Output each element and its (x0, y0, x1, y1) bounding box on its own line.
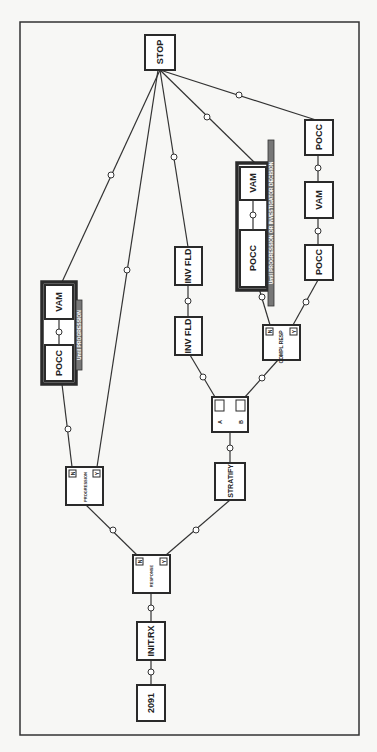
mid-bracket-label: Until PROGRESSION OR INVESTIGATOR DECISI… (268, 161, 274, 284)
svg-text:A: A (217, 420, 223, 424)
left-pocc-label: POCC (54, 350, 64, 377)
right-vam-node[interactable]: VAM (305, 182, 333, 218)
svg-text:COMPL RESP: COMPL RESP (278, 330, 284, 364)
svg-text:N: N (137, 559, 143, 563)
svg-text:2091: 2091 (146, 693, 156, 713)
randomize-node[interactable]: A B (212, 397, 248, 432)
svg-text:INIT.RX: INIT.RX (146, 625, 156, 656)
svg-text:VAM: VAM (314, 190, 324, 209)
progression-decision[interactable]: N Y PROGRESSION (66, 467, 103, 505)
svg-text:INV FLD: INV FLD (183, 248, 193, 283)
compl-resp-decision[interactable]: N Y COMPL RESP (263, 325, 300, 363)
right-pocc-1-node[interactable]: POCC (305, 120, 333, 155)
svg-text:B: B (238, 420, 244, 424)
init-rx-node[interactable]: INIT.RX (137, 622, 165, 660)
right-pocc-2-node[interactable]: POCC (305, 245, 333, 280)
left-vam-label: VAM (54, 292, 64, 311)
left-bracket-label: Until PROGRESSION (76, 310, 82, 360)
inv-fld-1-node[interactable]: INV FLD (175, 247, 202, 285)
left-cycle-bracket: VAM POCC Until PROGRESSION (42, 282, 82, 384)
mid-pocc-label: POCC (248, 245, 258, 272)
svg-text:RESPONSE: RESPONSE (149, 565, 154, 588)
mid-vam-label: VAM (248, 173, 258, 192)
stop-label: STOP (155, 40, 165, 64)
connector-lines (58, 70, 318, 685)
start-node[interactable]: 2091 (137, 685, 165, 721)
svg-text:N: N (70, 471, 76, 475)
svg-text:N: N (267, 329, 273, 333)
svg-text:POCC: POCC (314, 249, 324, 276)
inv-fld-2-node[interactable]: INV FLD (175, 317, 202, 355)
flowchart-canvas: STOP POCC VAM POCC VAM POCC Until PROGRE… (0, 0, 377, 752)
mid-cycle-bracket: VAM POCC Until PROGRESSION OR INVESTIGAT… (237, 140, 274, 306)
svg-text:STRATIFY: STRATIFY (227, 464, 234, 498)
svg-text:POCC: POCC (314, 124, 324, 151)
connector-markers (55, 92, 321, 675)
stratify-node[interactable]: STRATIFY (215, 463, 245, 500)
response-decision[interactable]: N Y RESPONSE (133, 555, 170, 593)
svg-text:INV FLD: INV FLD (183, 318, 193, 353)
stop-node[interactable]: STOP (145, 35, 175, 70)
svg-text:PROGRESSION: PROGRESSION (83, 472, 88, 502)
